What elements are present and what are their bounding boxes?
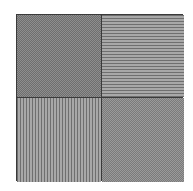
horizontal-stripe-texture-top-right xyxy=(102,15,184,97)
checkerboard-texture-bottom-right xyxy=(102,98,184,182)
texture-grid xyxy=(16,14,183,181)
checkerboard-texture-top-left xyxy=(17,15,101,97)
vertical-stripe-texture-bottom-left xyxy=(17,98,101,182)
